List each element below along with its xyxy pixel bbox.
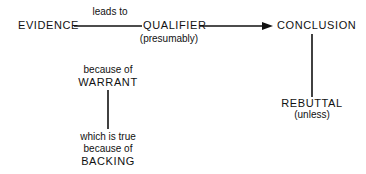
rebuttal-note: (unless) xyxy=(294,110,330,120)
qualifier-note: (presumably) xyxy=(140,34,198,44)
node-qualifier: QUALIFIER xyxy=(143,20,206,31)
backing-connector-line1: which is true xyxy=(80,132,136,142)
edge-label-leads-to: leads to xyxy=(92,7,127,17)
node-conclusion: CONCLUSION xyxy=(277,20,356,31)
node-rebuttal: REBUTTAL xyxy=(281,98,342,109)
warrant-connector: because of xyxy=(84,65,133,75)
arrowhead-icon xyxy=(262,22,273,30)
node-backing: BACKING xyxy=(81,156,135,167)
node-evidence: EVIDENCE xyxy=(18,20,79,31)
node-warrant: WARRANT xyxy=(78,77,137,88)
backing-connector-line2: because of xyxy=(84,144,133,154)
